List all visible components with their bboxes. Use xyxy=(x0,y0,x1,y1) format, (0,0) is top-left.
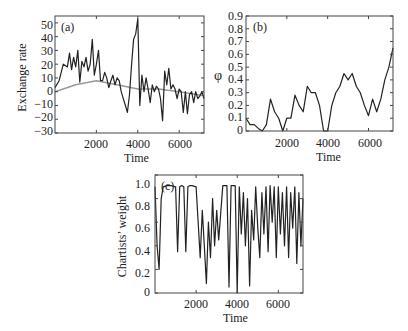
x-tick: 2000 xyxy=(184,297,208,312)
y-tick: 0.2 xyxy=(135,266,150,281)
panel-b-xlabel: Time xyxy=(316,150,341,165)
x-tick: 2000 xyxy=(275,136,299,151)
y-tick: 0 xyxy=(144,285,150,300)
plot-frame xyxy=(55,16,204,133)
y-tick: −20 xyxy=(34,110,53,125)
y-tick: −30 xyxy=(34,124,53,139)
x-tick: 6000 xyxy=(358,136,382,151)
panel-a-tag: (a) xyxy=(61,20,74,35)
panel-a-ylabel: Exchange rate xyxy=(15,38,30,118)
x-tick: 2000 xyxy=(84,137,108,152)
y-tick: 0.4 xyxy=(135,244,150,259)
series-line xyxy=(55,19,204,121)
y-tick: 0.8 xyxy=(135,199,150,214)
y-tick: 30 xyxy=(41,44,53,59)
series-line xyxy=(246,48,393,131)
panel-b-tag: (b) xyxy=(253,20,267,35)
y-tick: 0 xyxy=(237,123,243,138)
panel-a-xlabel: Time xyxy=(124,151,149,166)
x-tick: 6000 xyxy=(266,297,290,312)
panel-b-ylabel: φ xyxy=(214,68,222,84)
x-tick: 4000 xyxy=(316,136,340,151)
y-tick: 1.0 xyxy=(135,177,150,192)
series-line xyxy=(155,186,303,293)
panel-c-xlabel: Time xyxy=(223,311,248,326)
panel-c-tag: (c) xyxy=(161,179,174,194)
x-tick: 6000 xyxy=(168,137,192,152)
panel-c-ylabel: Chartists’ weight xyxy=(115,187,130,287)
x-tick: 4000 xyxy=(225,297,249,312)
y-tick: 0.6 xyxy=(135,221,150,236)
figure-canvas xyxy=(0,0,408,331)
x-tick: 4000 xyxy=(126,137,150,152)
